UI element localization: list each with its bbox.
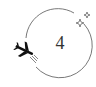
step-badge: 4	[0, 0, 96, 87]
step-number: 4	[48, 31, 72, 55]
